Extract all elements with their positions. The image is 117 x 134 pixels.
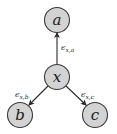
node-b: b bbox=[8, 103, 33, 128]
node-c-label: c bbox=[91, 106, 100, 124]
node-a: a bbox=[45, 8, 70, 33]
node-b-label: b bbox=[15, 106, 25, 124]
node-c: c bbox=[83, 103, 108, 128]
node-x: x bbox=[45, 65, 70, 90]
edge-label-x-c: ϵx,c bbox=[81, 90, 95, 100]
node-x-label: x bbox=[53, 68, 62, 86]
node-a-label: a bbox=[53, 11, 62, 29]
edge-label-x-a: ϵx,a bbox=[61, 43, 75, 53]
graph-diagram: ϵx,a ϵx,b ϵx,c a x b c bbox=[0, 0, 117, 134]
edge-label-x-b: ϵx,b bbox=[15, 90, 29, 100]
edge-x-to-b bbox=[29, 86, 48, 105]
